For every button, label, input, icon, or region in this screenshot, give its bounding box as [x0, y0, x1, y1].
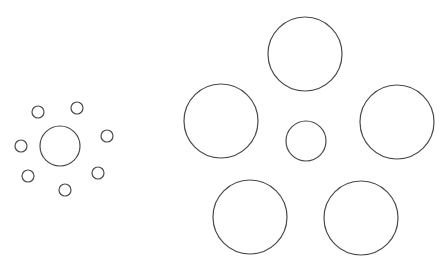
left-surrounding-circle — [32, 106, 44, 118]
right-surrounding-circle — [268, 17, 342, 91]
left-surrounding-circle — [15, 140, 27, 152]
right-center-circle — [286, 121, 326, 161]
right-surrounding-circle — [184, 84, 258, 158]
left-surrounding-circle — [92, 167, 104, 179]
ebbinghaus-illusion-diagram — [0, 0, 447, 268]
right-cluster — [184, 17, 434, 255]
right-surrounding-circle — [213, 180, 287, 254]
left-surrounding-circle — [59, 184, 71, 196]
right-surrounding-circle — [360, 85, 434, 159]
left-cluster — [15, 102, 113, 196]
left-surrounding-circle — [22, 170, 34, 182]
left-surrounding-circle — [101, 130, 113, 142]
right-surrounding-circle — [324, 181, 398, 255]
left-surrounding-circle — [71, 102, 83, 114]
left-center-circle — [40, 126, 80, 166]
